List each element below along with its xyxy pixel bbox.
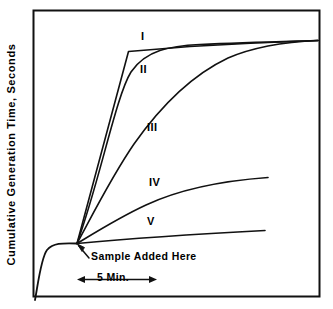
curve-label-iii: III (147, 122, 158, 133)
plot-area (0, 0, 333, 309)
curve-i (77, 41, 318, 244)
curve-label-iv: IV (149, 177, 160, 188)
curve-iii (77, 41, 318, 244)
curve-ii (77, 41, 318, 244)
figure-schematic-generation-time: Cumulative Generation Time, Seconds I II… (0, 0, 333, 309)
curve-label-i: I (141, 31, 145, 42)
curve-v (77, 231, 265, 244)
scale-bar-arrowhead-left (77, 276, 85, 283)
scale-bar-arrowhead-right (149, 276, 157, 283)
scale-bar-annotation: 5 Min. (97, 272, 129, 283)
curve-iv (77, 178, 268, 244)
sample-added-annotation: Sample Added Here (91, 251, 197, 262)
curve-label-ii: II (140, 64, 147, 75)
curve-label-v: V (147, 216, 155, 227)
curve-baseline (35, 243, 77, 300)
